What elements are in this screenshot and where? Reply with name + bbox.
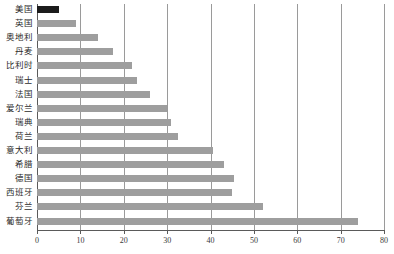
category-label: 西班牙 xyxy=(0,188,33,197)
bar xyxy=(37,6,59,13)
tick-label-60: 60 xyxy=(293,236,301,246)
bar-row: 法国 xyxy=(0,90,394,104)
bar-row: 比利时 xyxy=(0,61,394,75)
bar xyxy=(37,48,113,55)
tick-mark-60 xyxy=(297,230,298,234)
tick-label-20: 20 xyxy=(120,236,128,246)
bar xyxy=(37,218,358,225)
category-label: 芬兰 xyxy=(0,202,33,211)
category-label: 爱尔兰 xyxy=(0,104,33,113)
bar-row: 西班牙 xyxy=(0,188,394,202)
category-label: 丹麦 xyxy=(0,47,33,56)
bar-row: 美国 xyxy=(0,5,394,19)
bar xyxy=(37,105,167,112)
bar-row: 葡萄牙 xyxy=(0,217,394,231)
tick-label-40: 40 xyxy=(207,236,215,246)
category-label: 荷兰 xyxy=(0,132,33,141)
bar xyxy=(37,175,234,182)
bar xyxy=(37,77,137,84)
category-label: 比利时 xyxy=(0,61,33,70)
category-label: 希腊 xyxy=(0,160,33,169)
bar xyxy=(37,203,263,210)
category-label: 瑞士 xyxy=(0,76,33,85)
bar-row: 英国 xyxy=(0,19,394,33)
tick-mark-40 xyxy=(211,230,212,234)
bar-row: 丹麦 xyxy=(0,47,394,61)
category-label: 奥地利 xyxy=(0,33,33,42)
bar-row: 德国 xyxy=(0,174,394,188)
tick-mark-20 xyxy=(124,230,125,234)
bar xyxy=(37,91,150,98)
bar-row: 荷兰 xyxy=(0,132,394,146)
bar-row: 瑞士 xyxy=(0,76,394,90)
tick-mark-30 xyxy=(167,230,168,234)
tick-mark-80 xyxy=(384,230,385,234)
bar-row: 意大利 xyxy=(0,146,394,160)
bar xyxy=(37,119,171,126)
category-label: 瑞典 xyxy=(0,118,33,127)
bar xyxy=(37,34,98,41)
tick-label-50: 50 xyxy=(250,236,258,246)
tick-label-70: 70 xyxy=(337,236,345,246)
bar-row: 瑞典 xyxy=(0,118,394,132)
bar xyxy=(37,62,132,69)
tick-mark-0 xyxy=(37,230,38,234)
tick-mark-70 xyxy=(341,230,342,234)
category-label: 意大利 xyxy=(0,146,33,155)
category-label: 美国 xyxy=(0,5,33,14)
tick-label-10: 10 xyxy=(76,236,84,246)
category-label: 葡萄牙 xyxy=(0,217,33,226)
tick-label-0: 0 xyxy=(35,236,39,246)
bar xyxy=(37,133,178,140)
tick-mark-10 xyxy=(80,230,81,234)
category-label: 英国 xyxy=(0,19,33,28)
bar-row: 芬兰 xyxy=(0,202,394,216)
bar xyxy=(37,20,76,27)
category-label: 法国 xyxy=(0,90,33,99)
bar xyxy=(37,189,232,196)
bar xyxy=(37,147,213,154)
bar-row: 爱尔兰 xyxy=(0,104,394,118)
bar-chart: 美国英国奥地利丹麦比利时瑞士法国爱尔兰瑞典荷兰意大利希腊德国西班牙芬兰葡萄牙 0… xyxy=(0,0,394,254)
tick-mark-50 xyxy=(254,230,255,234)
tick-label-80: 80 xyxy=(380,236,388,246)
bar xyxy=(37,161,224,168)
tick-label-30: 30 xyxy=(163,236,171,246)
bar-row: 希腊 xyxy=(0,160,394,174)
category-label: 德国 xyxy=(0,174,33,183)
bar-row: 奥地利 xyxy=(0,33,394,47)
